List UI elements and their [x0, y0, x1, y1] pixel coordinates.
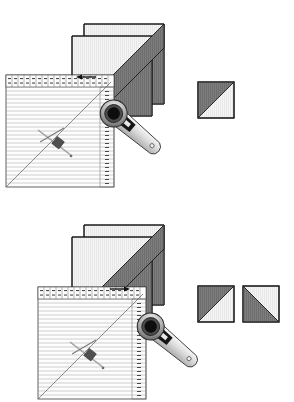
panel-top-stage [0, 0, 294, 201]
half-square-triangle-unit[interactable] [243, 286, 279, 322]
panel-top [0, 0, 294, 201]
panel-top-canvas [0, 0, 294, 201]
panel-bottom [0, 201, 294, 402]
panel-bottom-canvas [0, 201, 294, 402]
half-square-triangle-unit[interactable] [198, 82, 234, 118]
half-square-triangle-unit[interactable] [198, 286, 234, 322]
quilting-ruler[interactable] [38, 287, 146, 399]
panel-bottom-stage [0, 201, 294, 402]
quilting-ruler[interactable] [6, 75, 114, 187]
